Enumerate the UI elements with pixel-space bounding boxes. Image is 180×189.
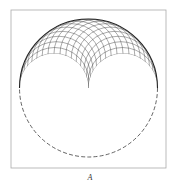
grid-circle [24, 36, 93, 105]
grid-circle [89, 54, 158, 123]
outer-circle-lower-dashed-arc [20, 88, 158, 157]
figure-caption: A [0, 173, 180, 182]
grid-circle [84, 36, 153, 105]
grid-circle [20, 54, 89, 123]
grid-circle [20, 48, 89, 117]
grid-circle [88, 48, 157, 117]
figure-frame [11, 10, 166, 168]
grid-circle [86, 42, 155, 111]
circle-grid [20, 19, 158, 123]
grid-circle [22, 42, 91, 111]
diagram-figure [0, 0, 180, 189]
